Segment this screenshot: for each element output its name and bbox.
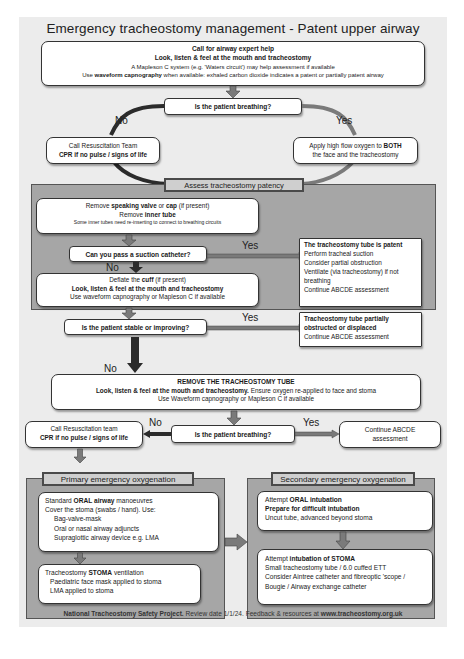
label-no: No xyxy=(106,262,119,273)
label-yes: Yes xyxy=(242,240,258,251)
list-item: Oral or nasal airway adjuncts xyxy=(45,524,212,533)
arrow-down-icon xyxy=(127,337,143,373)
box-text: Continue ABCDE assessment xyxy=(304,333,417,342)
deflate-cuff-box: Deflate the cuff (if present) Look, list… xyxy=(36,273,259,307)
label-yes: Yes xyxy=(303,417,319,428)
label-yes: Yes xyxy=(242,312,258,323)
arrow-right-icon xyxy=(225,534,247,550)
box-text: Prepare for difficult intubation xyxy=(265,504,425,513)
box-heading: The tracheostomy tube is patent xyxy=(304,241,417,250)
box-text: Tracheostomy STOMA ventilation xyxy=(45,568,194,577)
primary-oxygenation-label: Primary emergency oxygenation xyxy=(42,472,194,486)
resuscitation-box-1: Call Resuscitation Team CPR if no pulse … xyxy=(46,137,160,164)
resuscitation-box-2: Call Resuscitation team CPR if no pulse … xyxy=(25,421,143,448)
continue-abcde-box: Continue ABCDE assessment xyxy=(339,421,441,448)
footer-link[interactable]: www.tracheostomy.org.uk xyxy=(321,610,403,617)
assess-patency-label: Assess tracheostomy patency xyxy=(164,178,304,192)
list-item: Supraglottic airway device e.g. LMA xyxy=(45,533,212,542)
stoma-intubation-box: Attempt intubation of STOMA Small trache… xyxy=(257,549,433,605)
arrow-down-icon xyxy=(122,235,136,246)
arrow-right-icon xyxy=(207,324,307,332)
box-text: the face and the tracheostomy xyxy=(297,151,414,160)
footer-organization: National Tracheostomy Safety Project. xyxy=(64,610,184,617)
curved-arrow-yes-icon xyxy=(19,17,447,197)
tube-patent-box: The tracheostomy tube is patent Perform … xyxy=(299,238,422,307)
box-text: Uncut tube, advanced beyond stoma xyxy=(265,513,425,522)
box-text: Call Resuscitation Team xyxy=(50,142,156,151)
arrow-down-icon xyxy=(74,449,86,463)
question-stable-improving: Is the patient stable or improving? xyxy=(64,319,207,335)
question-suction-catheter: Can you pass a suction catheter? xyxy=(69,246,207,262)
oral-airway-box: Standard ORAL airway manoeuvres Cover th… xyxy=(38,492,219,552)
box-text: Ventilate (via tracheostomy) if not brea… xyxy=(304,268,417,286)
list-item: Paediatric face mask applied to stoma xyxy=(45,577,194,586)
list-item: Bag-valve-mask xyxy=(45,514,212,523)
list-item: LMA applied to stoma xyxy=(45,586,194,595)
box-heading: REMOVE THE TRACHEOSTOMY TUBE xyxy=(55,378,417,387)
remove-speaking-valve-box: Remove speaking valve or cap (if present… xyxy=(36,198,259,234)
box-text: CPR if no pulse / signs of life xyxy=(50,151,156,160)
box-text: Consider partial obstruction xyxy=(304,259,417,268)
box-text: Use waveform capnography or Mapleson C i… xyxy=(40,293,255,302)
high-flow-oxygen-box: Apply high flow oxygen to BOTH the face … xyxy=(293,137,418,164)
box-text: Apply high flow oxygen to BOTH xyxy=(297,142,414,151)
box-heading: Tracheostomy tube partially obstructed o… xyxy=(304,315,417,333)
arrow-right-icon xyxy=(207,252,307,260)
box-text: Consider Aintree catheter and fibreoptic… xyxy=(265,572,425,590)
box-text: Look, listen & feel at the mouth and tra… xyxy=(40,285,255,294)
box-text: Cover the stoma (swabs / hand). Use: xyxy=(45,505,212,514)
box-text: CPR if no pulse / signs of life xyxy=(29,434,139,443)
arrow-down-icon xyxy=(227,411,241,425)
arrow-down-icon xyxy=(336,532,350,549)
box-text: Some inner tubes need re-inserting to co… xyxy=(40,219,255,226)
stoma-ventilation-box: Tracheostomy STOMA ventilation Paediatri… xyxy=(38,564,201,604)
box-text: Small tracheostomy tube / 6.0 cuffed ETT xyxy=(265,563,425,572)
box-text: Look, listen & feel at the mouth and tra… xyxy=(55,387,417,396)
remove-tracheostomy-tube-box: REMOVE THE TRACHEOSTOMY TUBE Look, liste… xyxy=(51,374,421,410)
box-text: Deflate the cuff (if present) xyxy=(40,276,255,285)
box-text: Attempt ORAL intubation xyxy=(265,495,425,504)
tube-partially-obstructed-box: Tracheostomy tube partially obstructed o… xyxy=(299,312,422,347)
footer: National Tracheostomy Safety Project. Re… xyxy=(19,610,447,617)
box-text: Perform tracheal suction xyxy=(304,250,417,259)
box-text: Remove inner tube xyxy=(40,211,255,220)
arrow-left-icon xyxy=(143,430,171,438)
oral-intubation-box: Attempt ORAL intubation Prepare for diff… xyxy=(257,491,433,531)
label-no: No xyxy=(149,417,162,428)
label-no: No xyxy=(115,115,128,126)
arrow-down-icon xyxy=(122,308,136,319)
question-breathing-2: Is the patient breathing? xyxy=(171,425,295,443)
secondary-oxygenation-label: Secondary emergency oxygenation xyxy=(271,472,415,486)
label-yes: Yes xyxy=(336,115,352,126)
label-no: No xyxy=(104,363,117,374)
box-text: Continue ABCDE assessment xyxy=(304,286,417,295)
footer-text: Review date 1/1/24. Feedback & resources… xyxy=(184,610,321,617)
box-text: Standard ORAL airway manoeuvres xyxy=(45,496,212,505)
box-text: Remove speaking valve or cap (if present… xyxy=(40,202,255,211)
arrow-down-icon xyxy=(129,262,143,273)
arrow-right-icon xyxy=(295,430,339,438)
box-text: Use Waveform capnography or Mapleson C i… xyxy=(55,395,417,404)
arrow-down-icon xyxy=(74,553,86,564)
box-text: Call Resuscitation team xyxy=(29,425,139,434)
box-text: Attempt intubation of STOMA xyxy=(265,554,425,563)
